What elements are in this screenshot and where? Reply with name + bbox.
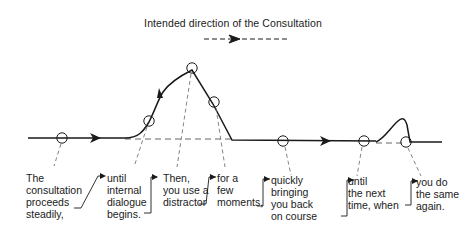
pointer-arrow-icon bbox=[264, 176, 270, 182]
stage-markers bbox=[57, 63, 411, 147]
marker-distractor bbox=[187, 63, 197, 73]
stage-label-next-time: until the next time, when bbox=[348, 175, 399, 211]
actual-path bbox=[28, 70, 442, 142]
stage-label-internal-dialogue: until internal dialogue begins. bbox=[107, 172, 147, 220]
stage-label-few-moments: for a few moments, bbox=[217, 172, 263, 208]
pointer-arrow-icon bbox=[210, 174, 216, 180]
stage-label-steady: The consultation proceeds steadily, bbox=[26, 172, 82, 220]
pointer-arrow-icon bbox=[152, 174, 158, 180]
legend-dashed-arrow bbox=[204, 35, 288, 43]
pointer-arrow-icon bbox=[100, 173, 106, 179]
stage-label-distractor: Then, you use a distractor bbox=[163, 172, 209, 208]
leader-lines bbox=[54, 74, 421, 176]
stage-label-same-again: you do the same again. bbox=[416, 176, 459, 212]
stage-label-back-on-course: quickly bringing you back on course bbox=[271, 174, 317, 222]
